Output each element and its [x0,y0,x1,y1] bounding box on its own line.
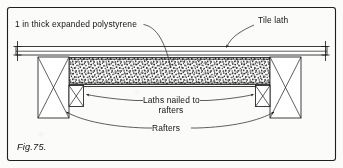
label-polystyrene: 1 in thick expanded polystyrene [15,19,137,29]
label-tile-lath: Tile lath [258,15,289,25]
leader-tile-lath [227,25,255,48]
construction-diagram: 1 in thick expanded polystyrene Tile lat… [0,0,343,168]
left-rafter [38,57,69,118]
label-laths-line1: Laths nailed to [143,95,200,105]
label-laths-line2: rafters [159,105,184,115]
figure-caption: Fig.75. [17,142,47,152]
right-rafter [270,57,301,118]
right-lath [256,86,271,107]
label-rafters: Rafters [152,123,180,133]
leader-lath-right [207,95,254,101]
figure-root: 1 in thick expanded polystyrene Tile lat… [0,0,343,168]
leader-rafter-left [67,112,147,128]
tile-lath-board [16,47,327,56]
left-lath [69,86,84,107]
leader-lath-left [87,95,137,101]
leader-rafter-right [197,112,274,128]
